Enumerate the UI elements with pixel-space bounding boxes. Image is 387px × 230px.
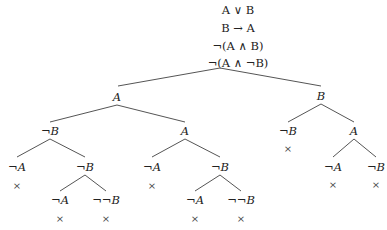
tree-node: ¬A (186, 193, 204, 207)
tree-edge (354, 139, 376, 157)
tree-node: ¬B (367, 160, 385, 174)
tree-node: A (350, 124, 358, 138)
tree-edge (50, 105, 117, 122)
tree-node: A (113, 90, 121, 104)
tree-node: ¬¬B (92, 193, 120, 207)
closed-branch-mark: × (102, 213, 110, 224)
tree-edge (117, 105, 185, 122)
closed-branch-mark: × (284, 143, 292, 154)
tree-node: ¬B (279, 124, 297, 138)
closed-branch-mark: × (13, 180, 21, 191)
tree-edge (60, 175, 85, 191)
tree-node: A (181, 124, 189, 138)
tree-edge (118, 68, 220, 86)
tree-edge (333, 139, 354, 157)
tree-edge (85, 175, 106, 191)
closed-branch-mark: × (372, 179, 380, 190)
tree-node: ¬A (324, 160, 342, 174)
tree-edge (321, 104, 354, 122)
closed-branch-mark: × (148, 180, 156, 191)
tree-edge (185, 139, 220, 157)
tree-node: ¬A (51, 193, 69, 207)
tree-edge (288, 104, 321, 122)
closed-branch-mark: × (191, 213, 199, 224)
tree-node: ¬¬B (227, 193, 255, 207)
tree-node: ¬A (8, 160, 26, 174)
closed-branch-mark: × (56, 213, 64, 224)
tree-edge (195, 175, 220, 191)
tree-node: B (317, 89, 325, 103)
tree-edge (220, 175, 241, 191)
tree-node: ¬B (76, 160, 94, 174)
closed-branch-mark: × (329, 179, 337, 190)
tree-edge (50, 139, 85, 157)
tree-edge (152, 139, 185, 157)
tree-node: ¬B (211, 160, 229, 174)
closed-branch-mark: × (237, 213, 245, 224)
tree-edge (17, 139, 50, 157)
tree-node: ¬B (41, 124, 59, 138)
tree-node: ¬A (143, 160, 161, 174)
tree-edge (220, 68, 321, 86)
